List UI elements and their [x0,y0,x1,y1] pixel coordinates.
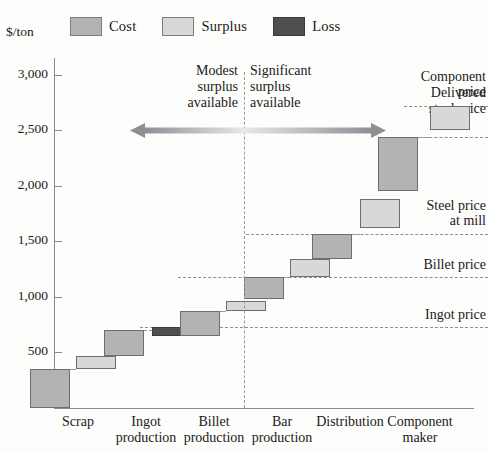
reference-label-line1: Delivered [429,85,486,101]
y-tick-mark [54,130,62,131]
step-connector [352,234,360,235]
waterfall-chart: Cost Surplus Loss $/ton 5001,0001,5002,0… [0,0,490,451]
reference-line-label: Steel priceat mill [427,198,486,229]
reference-line [246,234,488,235]
zone-note-right: Significant surplus available [250,63,346,111]
bar-segment-surplus [360,199,400,228]
reference-label-line2: at mill [427,213,486,229]
y-tick-label: 2,500 [0,121,48,137]
bar-segment-surplus [290,259,330,277]
reference-label-line1: Component [421,69,486,85]
y-tick-mark [54,75,62,76]
x-axis-line [54,408,474,409]
y-tick-label: 2,000 [0,177,48,193]
legend-item-surplus: Surplus [162,17,247,36]
x-axis-label-line1: Component [375,414,465,430]
zone-left-line2: surplus [154,79,238,95]
y-tick-mark [54,297,62,298]
y-tick-label: 3,000 [0,66,48,82]
zone-note-left: Modest surplus available [154,63,238,111]
reference-line-label: Billet price [423,257,486,273]
surplus-range-arrow [130,120,386,142]
step-connector [144,330,152,331]
zone-right-line1: Significant [250,63,346,79]
x-axis-label-line2: maker [375,430,465,446]
legend-label-surplus: Surplus [201,18,247,35]
zone-right-line3: available [250,95,346,111]
double-arrow-icon [130,120,386,142]
y-axis-unit-label: $/ton [6,24,34,40]
reference-line [178,277,488,278]
legend-label-cost: Cost [109,18,136,35]
step-connector [284,277,290,278]
chart-legend: Cost Surplus Loss [70,14,340,38]
bar-segment-cost [30,369,70,408]
zone-right-line2: surplus [250,79,346,95]
legend-label-loss: Loss [312,18,340,35]
reference-line-label: Ingot price [425,307,486,323]
legend-swatch-surplus [162,17,194,36]
y-tick-label: 1,000 [0,288,48,304]
y-tick-mark [54,352,62,353]
x-axis-label: Componentmaker [375,414,465,446]
legend-item-cost: Cost [70,17,136,36]
zone-left-line1: Modest [154,63,238,79]
reference-label-line1: Steel price [427,198,486,214]
y-tick-mark [54,186,62,187]
bar-segment-cost [378,137,418,191]
legend-item-loss: Loss [273,17,340,36]
y-tick-label: 1,500 [0,232,48,248]
bar-segment-cost [244,277,284,299]
legend-swatch-loss [273,17,305,36]
bar-segment-cost [312,234,352,260]
legend-swatch-cost [70,17,102,36]
y-tick-label: 500 [0,343,48,359]
reference-label-line1: Ingot price [425,307,486,323]
reference-label-line1: Billet price [423,257,486,273]
y-axis-line [54,58,55,408]
bar-segment-cost [104,330,144,356]
x-axis-label-line2: production [237,430,327,446]
bar-segment-surplus [76,356,116,369]
bar-segment-cost [180,311,220,335]
y-tick-mark [54,241,62,242]
step-connector [70,369,76,370]
step-connector [418,137,430,138]
zone-left-line3: available [154,95,238,111]
bar-segment-surplus [226,301,266,311]
bar-segment-surplus [430,106,470,130]
step-connector [220,311,226,312]
